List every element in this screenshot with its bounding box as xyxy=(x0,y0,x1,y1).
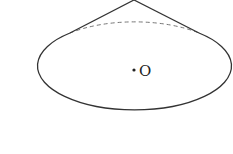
slant-edge-left xyxy=(70,0,134,33)
center-point xyxy=(132,68,135,71)
cone-diagram: O xyxy=(0,0,233,154)
center-label: O xyxy=(139,62,151,80)
slant-edge-right xyxy=(134,0,199,33)
